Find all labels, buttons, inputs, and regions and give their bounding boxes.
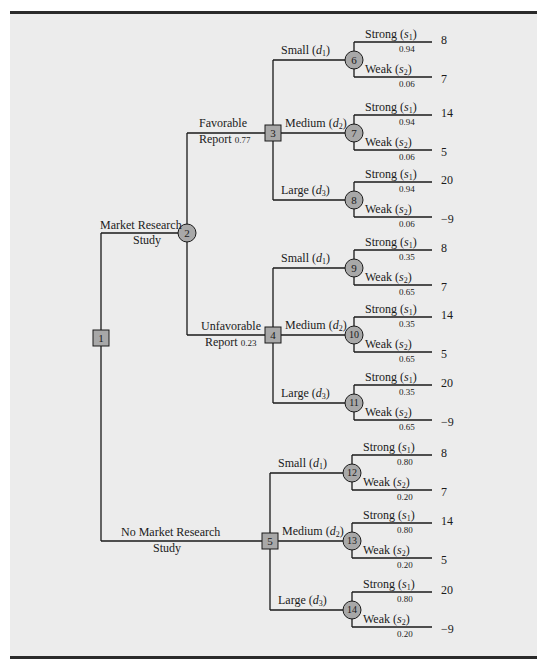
branch-label-favorable-report: Report 0.77 (199, 133, 250, 147)
chance-node-9: 9 (345, 261, 363, 275)
state-label-weak: Weak (s2) (365, 136, 412, 149)
probability-strong: 0.80 (397, 457, 413, 467)
probability-weak: 0.65 (399, 422, 415, 432)
decision-node-4: 4 (265, 328, 281, 342)
probability-strong: 0.80 (397, 594, 413, 604)
state-label-strong: Strong (s1) (365, 371, 417, 384)
chance-node-6: 6 (345, 53, 363, 67)
probability-strong: 0.35 (399, 252, 415, 262)
payoff-value: 8 (441, 242, 447, 255)
probability-strong: 0.35 (399, 387, 415, 397)
state-label-weak: Weak (s2) (363, 613, 410, 626)
state-label-weak: Weak (s2) (365, 203, 412, 216)
payoff-value: 7 (441, 73, 447, 86)
decision-label-medium: Medium (d2) (285, 117, 347, 130)
chance-node-2: 2 (178, 226, 196, 240)
state-label-strong: Strong (s1) (365, 28, 417, 41)
state-label-weak: Weak (s2) (365, 406, 412, 419)
probability-weak: 0.65 (399, 354, 415, 364)
probability-weak: 0.20 (397, 560, 413, 570)
payoff-value: 14 (441, 309, 453, 322)
probability-strong: 0.94 (399, 117, 415, 127)
payoff-value: 8 (441, 34, 447, 47)
state-label-weak: Weak (s2) (363, 544, 410, 557)
state-label-strong: Strong (s1) (365, 168, 417, 181)
decision-label-small: Small (d1) (281, 44, 330, 57)
chance-node-10: 10 (345, 328, 363, 342)
branch-label-unfavorable-report: Report 0.23 (205, 336, 256, 350)
probability-strong: 0.94 (399, 44, 415, 54)
state-label-weak: Weak (s2) (365, 63, 412, 76)
probability-strong: 0.35 (399, 319, 415, 329)
branch-label-no-market-research-study: Study (153, 542, 181, 555)
state-label-strong: Strong (s1) (363, 509, 415, 522)
state-label-weak: Weak (s2) (363, 476, 410, 489)
payoff-value: 8 (441, 447, 447, 460)
probability-weak: 0.06 (399, 79, 415, 89)
decision-label-large: Large (d3) (281, 387, 330, 400)
payoff-value: 14 (441, 515, 453, 528)
payoff-value: −9 (441, 623, 454, 636)
chance-node-8: 8 (345, 193, 363, 207)
state-label-strong: Strong (s1) (365, 101, 417, 114)
chance-node-11: 11 (345, 396, 363, 410)
chance-node-7: 7 (345, 126, 363, 140)
probability-weak: 0.65 (399, 287, 415, 297)
decision-label-medium: Medium (d2) (285, 319, 347, 332)
decision-label-medium: Medium (d2) (282, 525, 344, 538)
decision-label-small: Small (d1) (278, 457, 327, 470)
decision-label-large: Large (d3) (278, 594, 327, 607)
payoff-value: 5 (441, 554, 447, 567)
payoff-value: 7 (441, 281, 447, 294)
decision-label-small: Small (d1) (281, 252, 330, 265)
payoff-value: 7 (441, 486, 447, 499)
branch-label-market-research-study: Study (133, 234, 161, 247)
payoff-value: 14 (441, 107, 453, 120)
probability-weak: 0.20 (397, 492, 413, 502)
decision-node-5: 5 (262, 534, 278, 548)
payoff-value: 20 (441, 377, 453, 390)
branch-label-market-research: Market Research (100, 219, 182, 232)
decision-node-1: 1 (93, 331, 109, 345)
state-label-weak: Weak (s2) (365, 271, 412, 284)
state-label-strong: Strong (s1) (363, 441, 415, 454)
payoff-value: −9 (441, 416, 454, 429)
chance-node-12: 12 (343, 466, 361, 480)
payoff-value: 5 (441, 348, 447, 361)
branch-label-unfavorable: Unfavorable (201, 320, 261, 333)
branch-label-favorable: Favorable (199, 117, 247, 130)
branch-label-no-market-research: No Market Research (121, 526, 220, 539)
probability-strong: 0.80 (397, 525, 413, 535)
state-label-strong: Strong (s1) (365, 236, 417, 249)
payoff-value: 20 (441, 584, 453, 597)
probability-weak: 0.20 (397, 629, 413, 639)
payoff-value: 20 (441, 174, 453, 187)
state-label-strong: Strong (s1) (363, 578, 415, 591)
probability-weak: 0.06 (399, 219, 415, 229)
state-label-weak: Weak (s2) (365, 338, 412, 351)
decision-node-3: 3 (265, 126, 281, 140)
probability-strong: 0.94 (399, 184, 415, 194)
payoff-value: −9 (441, 213, 454, 226)
decision-label-large: Large (d3) (281, 184, 330, 197)
probability-weak: 0.06 (399, 152, 415, 162)
chance-node-14: 14 (343, 603, 361, 617)
state-label-strong: Strong (s1) (365, 303, 417, 316)
payoff-value: 5 (441, 146, 447, 159)
chance-node-13: 13 (343, 534, 361, 548)
